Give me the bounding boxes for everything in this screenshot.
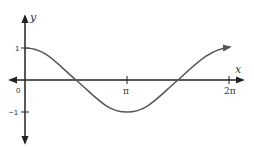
y-neg-one-label: −1 xyxy=(9,108,19,117)
pi-label: π xyxy=(123,86,129,96)
cosine-chart: y x 0 π 2π 1 −1 xyxy=(0,0,254,148)
y-one-label: 1 xyxy=(15,44,20,53)
origin-label: 0 xyxy=(16,86,21,95)
two-pi-label: 2π xyxy=(224,86,236,96)
y-axis-label: y xyxy=(29,11,37,24)
x-axis-label: x xyxy=(235,63,242,76)
